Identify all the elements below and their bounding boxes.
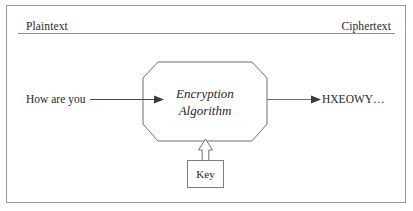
key-box: Key (187, 160, 224, 188)
encryption-algorithm-block: Encryption Algorithm (143, 62, 267, 141)
algorithm-label-line-2: Algorithm (179, 102, 232, 119)
encryption-diagram: Plaintext Ciphertext How are you HXEOWY…… (0, 0, 413, 211)
algorithm-label: Encryption Algorithm (143, 62, 267, 141)
algorithm-label-line-1: Encryption (176, 85, 234, 102)
block-arrow-up-icon (199, 139, 213, 161)
arrow-right-icon (311, 96, 321, 104)
key-label: Key (196, 168, 214, 180)
